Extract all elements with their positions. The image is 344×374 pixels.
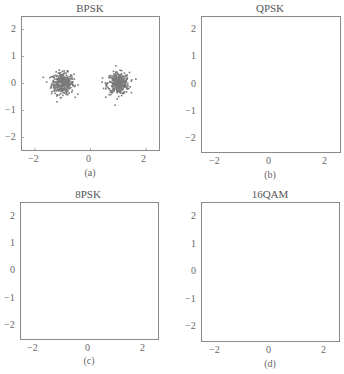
panel-caption: (c) (75, 355, 103, 366)
y-tick-label: 1 (10, 237, 15, 248)
y-tick-label: −2 (185, 132, 196, 143)
panel-title: 8PSK (58, 188, 118, 200)
y-tick-label: 1 (191, 238, 196, 249)
x-tick-label: −2 (27, 342, 38, 353)
y-tick-label: −1 (4, 292, 15, 303)
panel-caption: (d) (256, 358, 284, 369)
plot-frame (20, 202, 159, 340)
x-tick-label: 2 (322, 155, 327, 166)
y-tick-label: −1 (185, 293, 196, 304)
x-tick-label: 2 (321, 344, 326, 355)
panel-title: QPSK (240, 2, 300, 14)
y-tick-label: 1 (11, 50, 16, 61)
y-tick-label: 2 (191, 23, 196, 34)
y-tick-label: −2 (5, 131, 16, 142)
y-tick-label: 2 (11, 23, 16, 34)
x-tick-label: −2 (209, 155, 220, 166)
y-tick-label: −2 (185, 320, 196, 331)
plot-frame (201, 202, 340, 342)
panel-title: 16QAM (238, 188, 302, 200)
x-tick-label: −2 (28, 153, 39, 164)
x-tick-label: 0 (86, 153, 91, 164)
x-tick-label: 0 (85, 342, 90, 353)
x-tick-label: 2 (140, 342, 145, 353)
y-tick-label: 0 (11, 77, 16, 88)
x-tick-label: 0 (266, 344, 271, 355)
y-tick-label: −2 (4, 319, 15, 330)
plot-frame (201, 16, 341, 153)
x-tick-label: 2 (141, 153, 146, 164)
y-tick-label: 0 (191, 265, 196, 276)
panel-caption: (b) (256, 169, 284, 180)
y-tick-label: −1 (5, 104, 16, 115)
panel-caption: (a) (76, 167, 104, 178)
y-tick-label: −1 (185, 105, 196, 116)
y-tick-label: 2 (10, 210, 15, 221)
y-tick-label: 0 (191, 78, 196, 89)
x-tick-label: 0 (266, 155, 271, 166)
y-tick-label: 1 (191, 50, 196, 61)
y-tick-label: 0 (10, 264, 15, 275)
x-tick-label: −2 (209, 344, 220, 355)
y-tick-label: 2 (191, 210, 196, 221)
